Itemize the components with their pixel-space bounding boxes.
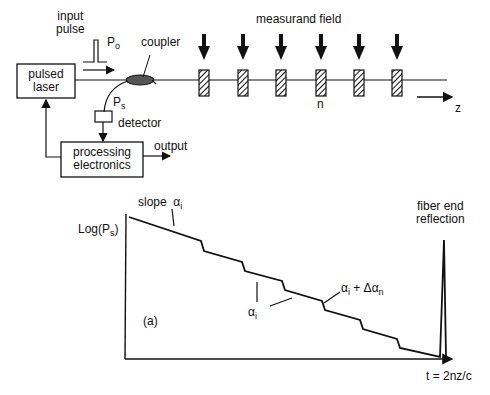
x-axis-label: t = 2nz/c: [426, 370, 472, 383]
processing-electronics-label: processing electronics: [61, 146, 143, 172]
backscatter-trace: [129, 217, 446, 357]
ps-label: Ps: [113, 96, 126, 110]
detector-label: detector: [118, 117, 161, 130]
coupler-label: coupler: [141, 36, 180, 49]
input-pulse-label: input pulse: [56, 10, 85, 36]
sensor-2: [237, 34, 249, 96]
sensor-array: [198, 34, 403, 96]
sensor-index-label: n: [317, 98, 324, 111]
sensor-4: [315, 34, 327, 96]
sensor-5: [353, 34, 365, 96]
z-axis-label: z: [455, 102, 461, 115]
diagram-canvas: [0, 0, 490, 395]
pulsed-laser-label: pulsed laser: [17, 68, 75, 94]
detector-box: [95, 111, 112, 122]
output-label: output: [154, 140, 187, 153]
alpha-i-label: αi: [248, 306, 257, 320]
coupler-shape: [126, 75, 154, 85]
p0-label: Po: [107, 36, 120, 50]
sensor-1: [198, 34, 210, 96]
y-axis: [125, 214, 126, 359]
feedback-line: [46, 100, 61, 157]
fiber-end-reflection-label: fiber end reflection: [416, 200, 465, 226]
sensor-6: [391, 34, 403, 96]
sensor-3: [275, 34, 287, 96]
panel-label: (a): [143, 315, 158, 328]
coupler-leader-line: [143, 55, 150, 77]
slope-label: slope αi: [138, 196, 182, 210]
y-axis-label: Log(Ps): [78, 223, 119, 237]
alpha-delta-label: αi + Δαn: [341, 282, 384, 296]
input-pulse-shape: [83, 40, 107, 62]
measurand-field-label: measurand field: [256, 13, 341, 26]
